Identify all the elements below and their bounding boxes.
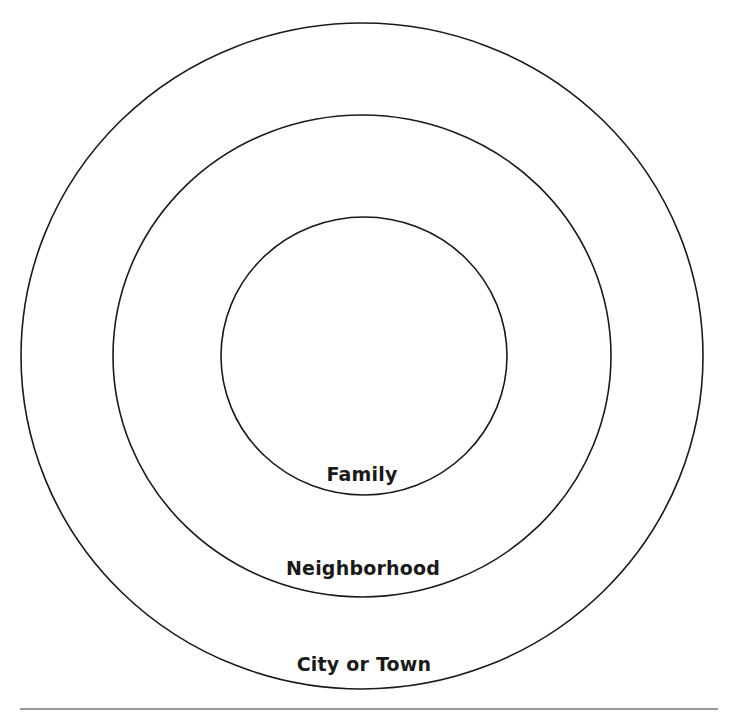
label-city-or-town: City or Town [297, 653, 432, 675]
outer-ring-city-or-town [21, 23, 703, 689]
inner-ring-family [221, 217, 507, 495]
label-neighborhood: Neighborhood [286, 557, 440, 579]
middle-ring-neighborhood [113, 115, 611, 597]
label-family: Family [326, 463, 397, 485]
diagram-canvas [0, 0, 730, 714]
